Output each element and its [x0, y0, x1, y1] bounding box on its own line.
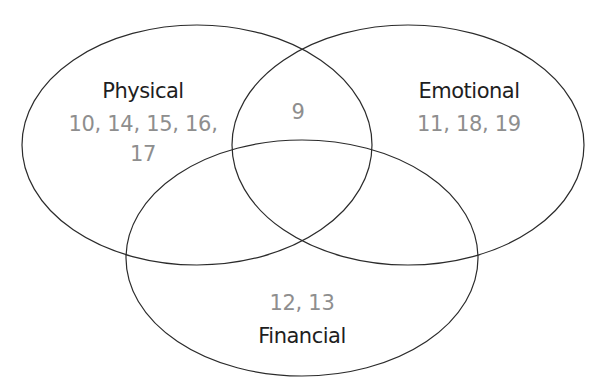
financial-set-items: 12, 13: [270, 293, 335, 314]
venn-diagram: Physical 10, 14, 15, 16, 17 9 Emotional …: [0, 0, 595, 387]
physical-set-label: Physical: [102, 81, 183, 102]
emotional-set-items: 11, 18, 19: [417, 114, 521, 135]
physical-ellipse: [22, 25, 372, 265]
emotional-ellipse: [232, 25, 584, 265]
physical-emotional-intersection-items: 9: [291, 102, 304, 123]
emotional-set-label: Emotional: [418, 81, 519, 102]
physical-set-items-line2: 17: [130, 144, 156, 165]
physical-set-items-line1: 10, 14, 15, 16,: [68, 114, 217, 135]
financial-set-label: Financial: [258, 326, 345, 347]
